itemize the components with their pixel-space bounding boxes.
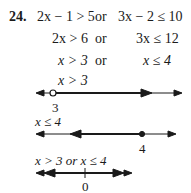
open-circle-icon	[50, 90, 56, 96]
line3-caption: x > 3 or x ≤ 4	[35, 154, 107, 168]
number-line-2	[36, 130, 176, 138]
line1-point-label: 3	[52, 101, 59, 115]
line2-point-label: 4	[139, 142, 146, 156]
number-line-1	[36, 89, 182, 97]
line3-point-label: 0	[82, 180, 89, 193]
number-line-3	[36, 168, 132, 178]
line2-caption: x ≤ 4	[35, 115, 61, 129]
closed-dot-icon	[139, 131, 144, 136]
